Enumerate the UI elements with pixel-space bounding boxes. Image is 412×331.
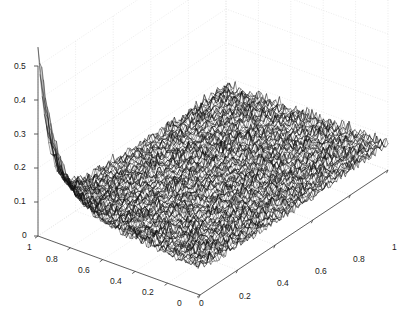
z-axis-tick-label-3: 0.2 — [14, 163, 26, 172]
x-axis-tick-label-0: 0 — [199, 299, 204, 308]
surface-mesh — [38, 48, 388, 269]
y-axis-tick-label-0: 1 — [27, 243, 32, 252]
x-axis-tick-label-5: 1 — [392, 243, 397, 252]
y-axis-tick-label-5: 0 — [177, 299, 182, 308]
x-axis-tick-label-1: 0.2 — [239, 292, 251, 301]
figure-3d-surface-plot: 0.50.40.30.20.1010.80.60.40.2000.20.40.6… — [0, 0, 412, 331]
z-axis-tick-label-2: 0.3 — [14, 130, 26, 139]
x-axis-tick-label-2: 0.4 — [277, 279, 289, 288]
z-axis-tick-label-0: 0.5 — [14, 62, 26, 71]
y-axis-tick-label-1: 0.8 — [46, 255, 58, 264]
plot-canvas — [0, 0, 412, 331]
x-axis-tick-label-3: 0.6 — [315, 267, 327, 276]
y-axis-tick-label-2: 0.6 — [78, 266, 90, 275]
z-axis-tick-label-5: 0 — [22, 231, 27, 240]
x-axis-tick-label-4: 0.8 — [353, 255, 365, 264]
z-axis-tick-label-4: 0.1 — [14, 197, 26, 206]
z-axis-tick-label-1: 0.4 — [14, 96, 26, 105]
y-axis-tick-label-3: 0.4 — [110, 277, 122, 286]
y-axis-tick-label-4: 0.2 — [142, 288, 154, 297]
